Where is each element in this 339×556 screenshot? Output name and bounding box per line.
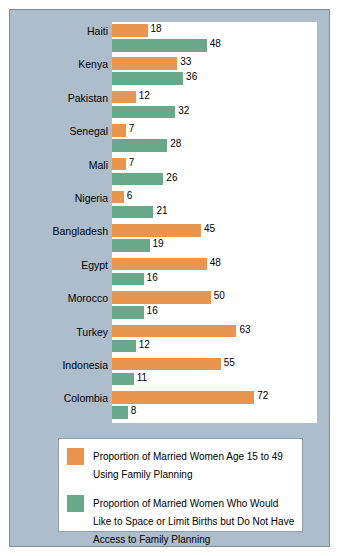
chart-row: Mali726 — [22, 156, 317, 189]
bar-value-label: 33 — [180, 56, 191, 67]
category-label: Morocco — [22, 292, 108, 304]
bar-value-label: 21 — [156, 205, 167, 216]
bar-using-family-planning: 7 — [112, 158, 126, 171]
bar-using-family-planning: 50 — [112, 291, 211, 304]
legend-item-label: Proportion of Married Women Age 15 to 49… — [93, 451, 283, 480]
bar-using-family-planning: 33 — [112, 57, 177, 70]
category-label: Egypt — [22, 259, 108, 271]
category-label: Bangladesh — [22, 225, 108, 237]
bar-unmet-need: 8 — [112, 406, 128, 419]
bar-unmet-need: 19 — [112, 239, 150, 252]
bar-group: 5016 — [112, 289, 317, 322]
legend-item-unmet-need: Proportion of Married Women Who Would Li… — [59, 486, 302, 551]
bar-value-label: 7 — [129, 123, 135, 134]
bar-group: 1232 — [112, 89, 317, 122]
category-label: Indonesia — [22, 359, 108, 371]
bar-value-label: 19 — [153, 238, 164, 249]
chart-legend: Proportion of Married Women Age 15 to 49… — [58, 438, 303, 532]
bar-group: 4816 — [112, 256, 317, 289]
bar-group: 5511 — [112, 356, 317, 389]
chart-row: Senegal728 — [22, 122, 317, 155]
bar-value-label: 48 — [210, 38, 221, 49]
bar-value-label: 16 — [147, 305, 158, 316]
category-label: Kenya — [22, 58, 108, 70]
bar-using-family-planning: 45 — [112, 224, 201, 237]
bar-using-family-planning: 48 — [112, 258, 207, 271]
bar-using-family-planning: 63 — [112, 325, 236, 338]
bar-using-family-planning: 6 — [112, 191, 124, 204]
bar-group: 4519 — [112, 222, 317, 255]
bar-value-label: 48 — [210, 257, 221, 268]
chart-row: Nigeria621 — [22, 189, 317, 222]
bar-group: 621 — [112, 189, 317, 222]
category-label: Pakistan — [22, 92, 108, 104]
category-label: Colombia — [22, 392, 108, 404]
bar-value-label: 18 — [151, 23, 162, 34]
bar-unmet-need: 11 — [112, 373, 134, 386]
orange-swatch-icon — [67, 448, 84, 465]
chart-plot-area: Haiti1848Kenya3336Pakistan1232Senegal728… — [22, 22, 317, 426]
bar-using-family-planning: 7 — [112, 124, 126, 137]
chart-row: Haiti1848 — [22, 22, 317, 55]
bar-group: 3336 — [112, 55, 317, 88]
category-label: Nigeria — [22, 192, 108, 204]
category-label: Senegal — [22, 125, 108, 137]
bar-unmet-need: 16 — [112, 306, 144, 319]
bar-value-label: 63 — [239, 324, 250, 335]
category-label: Haiti — [22, 25, 108, 37]
chart-row: Egypt4816 — [22, 256, 317, 289]
chart-row: Turkey6312 — [22, 323, 317, 356]
bar-group: 1848 — [112, 22, 317, 55]
bar-value-label: 26 — [166, 172, 177, 183]
bar-unmet-need: 48 — [112, 39, 207, 52]
chart-row: Bangladesh4519 — [22, 222, 317, 255]
bar-unmet-need: 36 — [112, 72, 183, 85]
bar-unmet-need: 21 — [112, 206, 153, 219]
chart-row: Morocco5016 — [22, 289, 317, 322]
bar-unmet-need: 32 — [112, 106, 175, 119]
bar-using-family-planning: 18 — [112, 24, 148, 37]
bar-unmet-need: 26 — [112, 173, 163, 186]
bar-unmet-need: 12 — [112, 340, 136, 353]
bar-value-label: 55 — [224, 357, 235, 368]
bar-value-label: 7 — [129, 157, 135, 168]
bar-value-label: 45 — [204, 223, 215, 234]
bar-value-label: 11 — [137, 372, 147, 383]
bar-value-label: 12 — [139, 339, 150, 350]
bar-using-family-planning: 12 — [112, 91, 136, 104]
bar-value-label: 12 — [139, 90, 150, 101]
bar-group: 728 — [112, 122, 317, 155]
chart-row: Colombia728 — [22, 389, 317, 422]
bar-using-family-planning: 55 — [112, 358, 221, 371]
bar-value-label: 36 — [186, 71, 197, 82]
bar-value-label: 50 — [214, 290, 225, 301]
bar-value-label: 32 — [178, 105, 189, 116]
bar-value-label: 8 — [131, 405, 137, 416]
bar-value-label: 6 — [127, 190, 133, 201]
bar-value-label: 72 — [257, 390, 268, 401]
chart-row: Pakistan1232 — [22, 89, 317, 122]
bar-group: 728 — [112, 389, 317, 422]
legend-item-label: Proportion of Married Women Who Would Li… — [93, 498, 294, 545]
bar-value-label: 16 — [147, 272, 158, 283]
bar-unmet-need: 28 — [112, 139, 167, 152]
chart-row: Indonesia5511 — [22, 356, 317, 389]
green-swatch-icon — [67, 495, 84, 512]
legend-item-using-family-planning: Proportion of Married Women Age 15 to 49… — [59, 439, 302, 486]
bar-using-family-planning: 72 — [112, 391, 254, 404]
bar-unmet-need: 16 — [112, 273, 144, 286]
category-label: Mali — [22, 159, 108, 171]
category-label: Turkey — [22, 326, 108, 338]
chart-frame: Haiti1848Kenya3336Pakistan1232Senegal728… — [9, 9, 330, 547]
bar-value-label: 28 — [170, 138, 181, 149]
bar-group: 726 — [112, 156, 317, 189]
bar-group: 6312 — [112, 323, 317, 356]
chart-row: Kenya3336 — [22, 55, 317, 88]
